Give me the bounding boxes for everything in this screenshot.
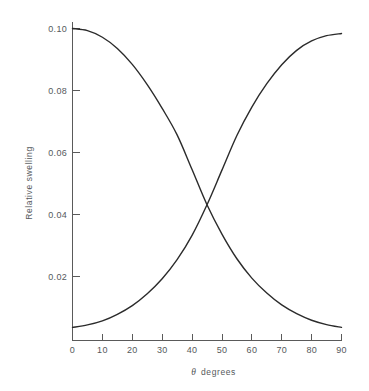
y-tick-label-0.08: 0.08 — [48, 86, 67, 96]
x-axis-title-text: degrees — [201, 367, 236, 377]
y-tick-label-0.06: 0.06 — [48, 148, 67, 158]
x-tick-label-90: 90 — [336, 345, 347, 355]
x-tick-label-10: 10 — [97, 345, 108, 355]
x-tick-label-20: 20 — [127, 345, 138, 355]
x-tick-label-80: 80 — [306, 345, 317, 355]
y-tick-label-0.10: 0.10 — [48, 24, 67, 34]
x-tick-label-70: 70 — [276, 345, 287, 355]
y-axis-title: Relative swelling — [24, 146, 34, 220]
y-tick-label-0.02: 0.02 — [48, 272, 67, 282]
x-tick-label-50: 50 — [217, 345, 228, 355]
x-tick-label-40: 40 — [187, 345, 198, 355]
x-tick-label-0: 0 — [70, 345, 75, 355]
chart-background — [0, 0, 369, 391]
chart-figure: 0.10 0.08 0.06 0.04 0.02 0 10 20 30 40 — [0, 0, 369, 391]
relative-swelling-line-chart: 0.10 0.08 0.06 0.04 0.02 0 10 20 30 40 — [0, 0, 369, 391]
x-tick-label-30: 30 — [157, 345, 168, 355]
x-axis-title-symbol: θ — [191, 367, 196, 377]
x-tick-label-60: 60 — [247, 345, 258, 355]
y-tick-label-0.04: 0.04 — [48, 210, 67, 220]
